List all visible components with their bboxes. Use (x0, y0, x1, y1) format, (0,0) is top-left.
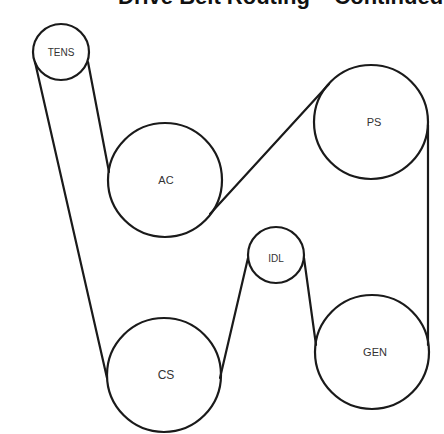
pulley-label-idl: IDL (268, 253, 284, 264)
belt-segment-ac-ps (210, 84, 329, 214)
belt-segment-idl-cs (220, 258, 248, 378)
pulley-label-ac: AC (158, 174, 173, 186)
belt-segment-tens-ac (88, 62, 109, 172)
pulley-label-ps: PS (367, 116, 382, 128)
belt-segment-idl-gen (304, 258, 316, 345)
belt-routing-diagram: TENS PS AC IDL GEN CS (0, 0, 444, 434)
pulley-label-gen: GEN (363, 346, 387, 358)
pulley-label-tens: TENS (48, 47, 75, 58)
pulley-label-cs: CS (158, 368, 175, 382)
